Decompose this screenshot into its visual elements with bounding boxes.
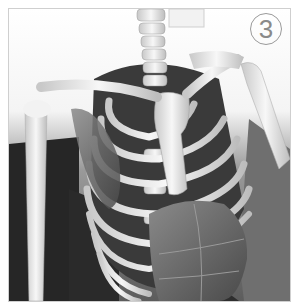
skeleton-illustration	[9, 9, 290, 301]
illustration-frame: 3	[8, 8, 291, 302]
step-number-badge: 3	[250, 13, 282, 45]
step-number: 3	[259, 16, 273, 42]
